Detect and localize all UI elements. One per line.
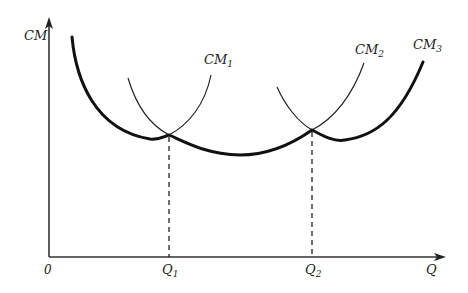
origin-label: 0: [44, 263, 52, 277]
cm2-label: CM2: [355, 42, 384, 59]
cost-curves-diagram: CM 0 Q Q1 Q2 CM1 CM2 CM3: [0, 0, 468, 293]
y-axis-label: CM: [24, 28, 48, 43]
cm1-label: CM1: [204, 52, 233, 69]
cm1-curve: [128, 75, 211, 135]
q1-tick-label: Q1: [162, 262, 178, 279]
cm3-label: CM3: [413, 37, 442, 54]
cm2-curve: [277, 63, 364, 130]
x-axis-label: Q: [426, 262, 437, 277]
q2-tick-label: Q2: [305, 262, 322, 279]
